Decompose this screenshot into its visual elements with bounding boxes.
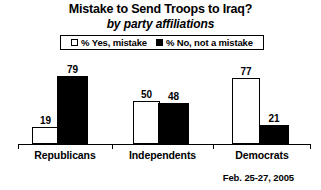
category-label-republicans: Republicans	[18, 149, 112, 162]
bar-value-independents-yes: 50	[133, 89, 160, 100]
plot-area: 19 79 50 48 77 21	[18, 56, 311, 145]
legend-item-yes: % Yes, mistake	[71, 38, 147, 48]
bar-group-independents: 50 48	[112, 56, 213, 144]
legend-swatch-open-square-icon	[71, 39, 78, 46]
bar-independents-no	[158, 103, 189, 144]
bar-value-independents-no: 48	[158, 91, 189, 102]
bar-value-republicans-yes: 19	[32, 115, 59, 126]
x-axis-category-labels: Republicans Independents Democrats	[18, 149, 311, 163]
chart-container: Mistake to Send Troops to Iraq? by party…	[0, 0, 321, 190]
category-label-democrats: Democrats	[213, 149, 311, 162]
chart-title-block: Mistake to Send Troops to Iraq? by party…	[0, 2, 321, 31]
chart-legend: % Yes, mistake % No, not a mistake	[60, 35, 264, 50]
chart-title: Mistake to Send Troops to Iraq?	[0, 2, 321, 17]
bar-group-democrats: 77 21	[213, 56, 311, 144]
category-label-independents: Independents	[112, 149, 213, 162]
bar-value-republicans-no: 79	[57, 64, 88, 75]
chart-subtitle: by party affiliations	[0, 17, 321, 31]
bar-republicans-yes	[32, 127, 59, 144]
bar-value-democrats-no: 21	[259, 113, 289, 124]
legend-swatch-filled-square-icon	[156, 39, 163, 46]
bar-value-democrats-yes: 77	[232, 66, 260, 77]
x-axis-baseline	[18, 144, 311, 145]
bar-independents-yes	[133, 101, 160, 144]
legend-item-no: % No, not a mistake	[156, 38, 253, 48]
survey-date-note: Feb. 25-27, 2005	[223, 172, 294, 183]
bar-democrats-yes	[232, 78, 260, 144]
bar-group-republicans: 19 79	[18, 56, 112, 144]
legend-label-no: % No, not a mistake	[166, 38, 253, 48]
bar-republicans-no	[57, 76, 88, 144]
bar-democrats-no	[259, 125, 289, 144]
legend-label-yes: % Yes, mistake	[81, 38, 147, 48]
